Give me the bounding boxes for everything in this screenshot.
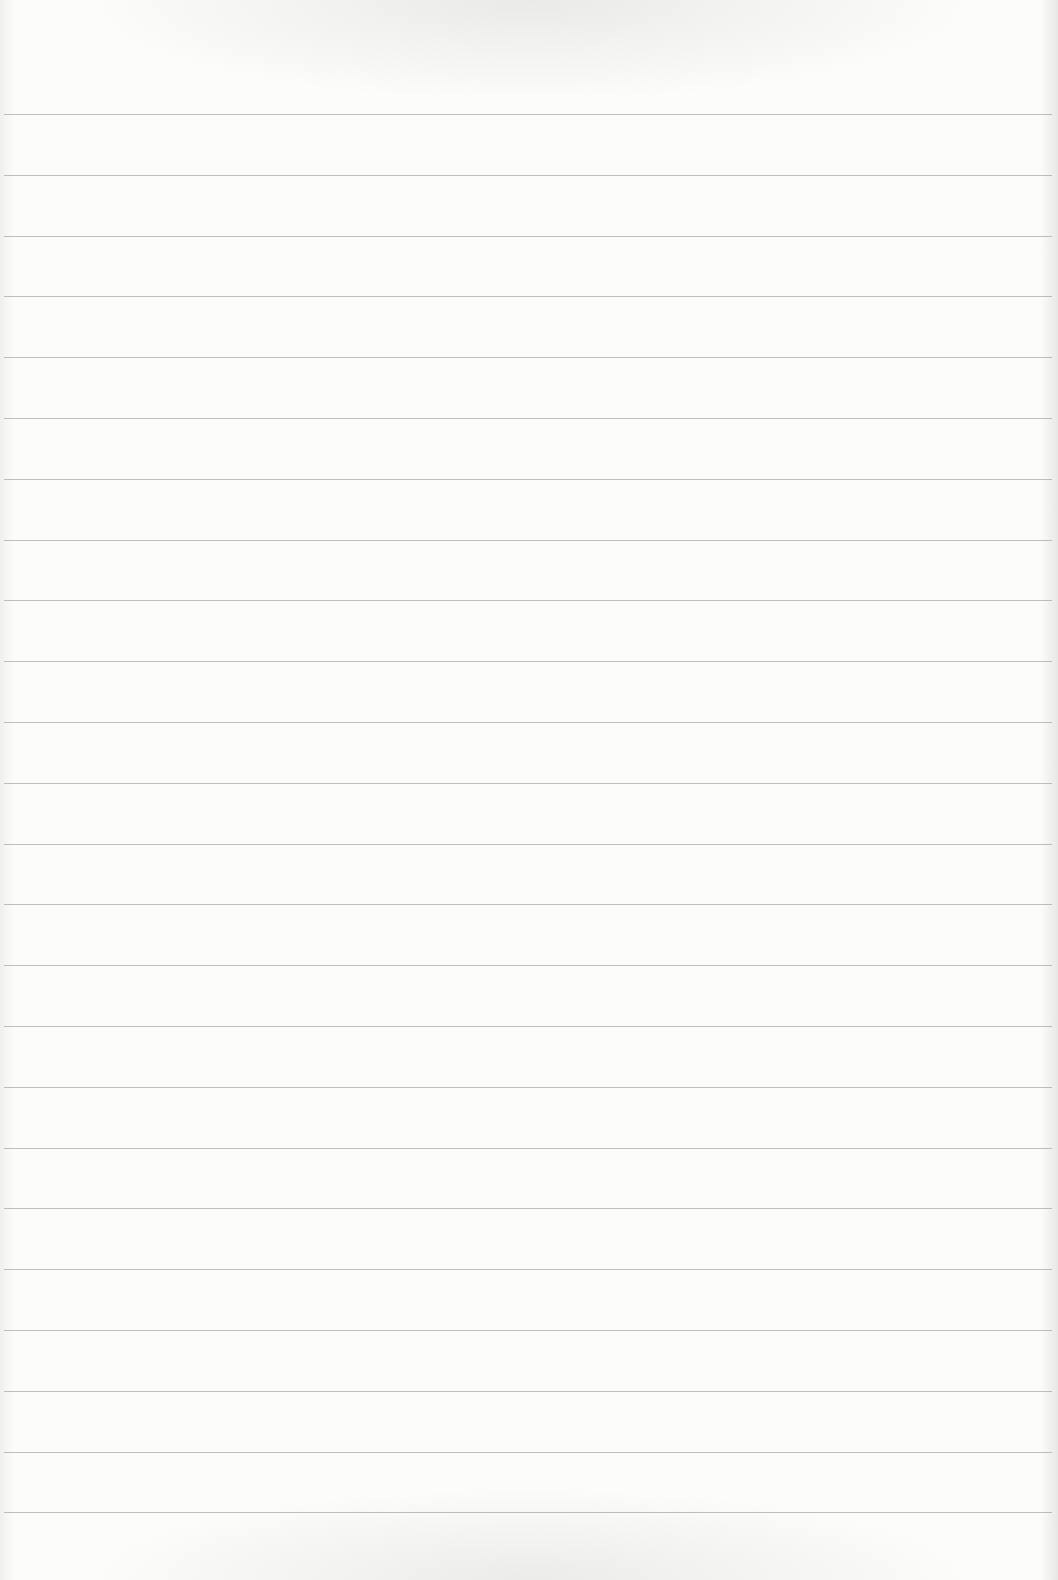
ruled-line: [4, 1452, 1052, 1453]
ruled-line: [4, 1026, 1052, 1027]
ruled-line: [4, 1391, 1052, 1392]
ruled-line: [4, 1330, 1052, 1331]
ruled-line: [4, 1269, 1052, 1270]
ruled-line: [4, 1148, 1052, 1149]
ruled-line: [4, 236, 1052, 237]
ruled-line: [4, 1208, 1052, 1209]
ruled-line: [4, 1087, 1052, 1088]
ruled-line: [4, 357, 1052, 358]
ruled-line: [4, 418, 1052, 419]
ruled-line: [4, 114, 1052, 115]
ruled-line: [4, 479, 1052, 480]
ruled-line: [4, 661, 1052, 662]
lined-paper-sheet: [0, 0, 1058, 1580]
ruled-line: [4, 783, 1052, 784]
ruled-line: [4, 600, 1052, 601]
ruled-line: [4, 965, 1052, 966]
ruled-line: [4, 175, 1052, 176]
ruled-line: [4, 540, 1052, 541]
ruled-line: [4, 722, 1052, 723]
ruled-line: [4, 844, 1052, 845]
ruled-line: [4, 1512, 1052, 1513]
ruled-line: [4, 904, 1052, 905]
ruled-line: [4, 296, 1052, 297]
